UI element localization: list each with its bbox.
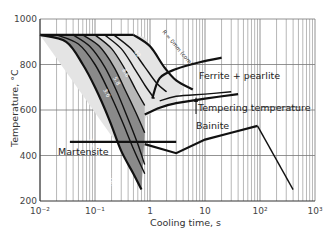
region-label-bainite: Bainite xyxy=(196,120,229,131)
x-tick-label: 1 xyxy=(147,206,153,216)
x-tick-label: 10 xyxy=(199,206,211,216)
region-label-tempering: Tempering temperature xyxy=(197,102,311,113)
x-axis-label: Cooling time, s xyxy=(150,217,221,228)
x-tick-label: 10² xyxy=(252,206,267,216)
region-label-martensite: Martensite xyxy=(58,146,109,157)
x-tick-label: 10⁻¹ xyxy=(85,206,105,216)
y-tick-label: 600 xyxy=(20,105,37,115)
curve-label: R = 0mm (core) xyxy=(161,29,194,67)
cct-diagram: R = 0mm (surface)3.65.88.612R = 0mm (cor… xyxy=(0,0,332,239)
region-label-ferrite-pearlite: Ferrite + pearlite xyxy=(199,70,280,81)
y-tick-label: 800 xyxy=(20,60,37,70)
x-tick-label: 10⁻² xyxy=(30,206,50,216)
x-tick-label: 10³ xyxy=(307,206,322,216)
y-axis-label: Temperature, °C xyxy=(9,69,20,148)
y-tick-label: 200 xyxy=(20,196,37,206)
tail-line xyxy=(258,126,294,190)
y-tick-label: 400 xyxy=(20,151,37,161)
y-tick-label: 1000 xyxy=(14,14,37,24)
